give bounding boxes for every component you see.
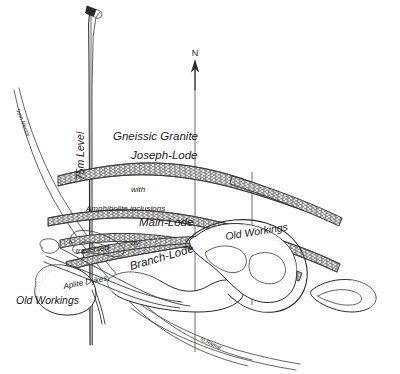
mine-plan-svg: N xyxy=(0,0,400,374)
main-lode-label: Main-Lode xyxy=(139,216,193,228)
joseph-lode-label: Joseph-Lode xyxy=(130,149,198,161)
amphibolite-label: Amphibolite inclusions xyxy=(85,204,165,213)
north-label: N xyxy=(192,48,199,58)
level-label: 75m Level xyxy=(74,131,86,180)
old-workings-left-label: Old Workings xyxy=(16,294,80,306)
with-label: with xyxy=(131,185,146,194)
figure-background xyxy=(0,0,400,374)
by-label: by xyxy=(131,238,140,247)
mine-plan-figure: N xyxy=(0,0,400,374)
formation-label: Gneissic Granite xyxy=(113,130,198,142)
